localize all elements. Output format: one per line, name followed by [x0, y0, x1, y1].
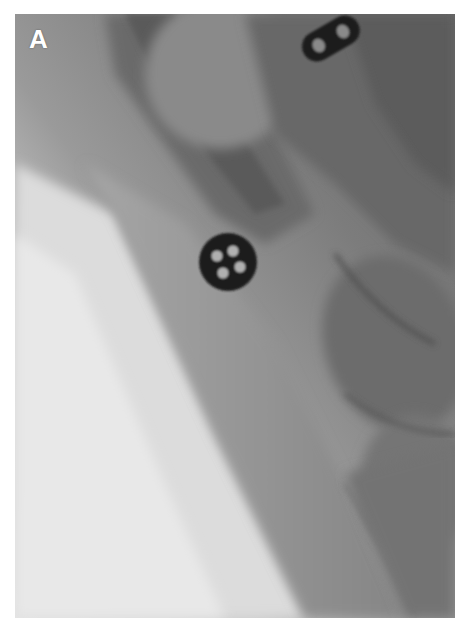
radiograph-panel: A	[15, 14, 455, 618]
radiograph-image	[15, 14, 455, 618]
round-button-marker	[199, 233, 257, 291]
panel-label: A	[29, 26, 48, 52]
